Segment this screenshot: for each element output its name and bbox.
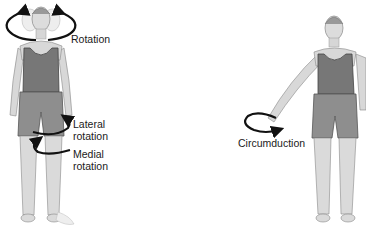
label-lateral-rotation-line2: rotation	[73, 130, 108, 142]
label-rotation: Rotation	[71, 33, 110, 45]
label-medial-rotation-line2: rotation	[73, 160, 108, 172]
label-medial-rotation-line1: Medial	[73, 148, 104, 160]
right-figure	[245, 16, 366, 222]
figures-svg	[0, 0, 366, 234]
label-circumduction: Circumduction	[238, 137, 305, 149]
label-lateral-rotation-line1: Lateral	[73, 118, 105, 130]
movement-diagram: Rotation Lateral rotation Medial rotatio…	[0, 0, 366, 234]
left-figure	[7, 7, 76, 225]
